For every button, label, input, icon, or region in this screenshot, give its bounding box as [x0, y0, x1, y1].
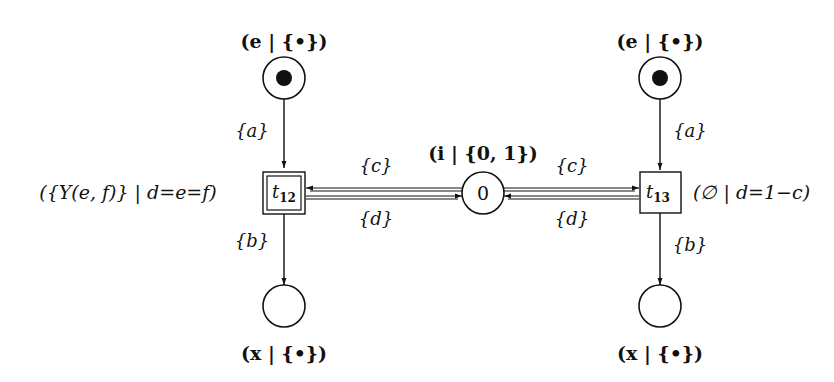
transition-t12: t12	[263, 172, 305, 214]
token-icon	[276, 70, 292, 86]
place-e-right	[639, 57, 681, 99]
place-e-left-label: (e | {•})	[241, 30, 328, 53]
arc-label-b-left: {b}	[235, 230, 269, 251]
arc-t13-to-i	[504, 196, 639, 199]
token-icon	[652, 70, 668, 86]
arc-label-c-left: {c}	[360, 155, 393, 176]
place-e-right-label: (e | {•})	[617, 30, 704, 53]
transition-t13: t13	[640, 172, 681, 213]
arc-label-a-left: {a}	[235, 120, 269, 141]
arc-label-d-left: {d}	[359, 208, 393, 229]
arc-label-d-right: {d}	[555, 208, 589, 229]
t12-subscript: 12	[279, 191, 296, 205]
arc-label-b-right: {b}	[673, 234, 707, 255]
place-x-left	[263, 285, 305, 327]
arc-t12-to-i	[306, 196, 462, 199]
place-x-left-label: (x | {•})	[241, 342, 327, 365]
t12-annotation: ({Y(e, f)} | d=e=f)	[39, 181, 217, 204]
petri-net-diagram: (e | {•}) {a} t12 ({Y(e, f)} | d=e=f) {b…	[0, 0, 834, 382]
place-x-right	[639, 285, 681, 327]
place-x-right-label: (x | {•})	[617, 342, 703, 365]
place-i-label: (i | {0, 1})	[428, 142, 537, 165]
place-e-left	[263, 57, 305, 99]
place-i-value: 0	[477, 182, 489, 204]
arc-label-a-right: {a}	[673, 120, 707, 141]
t13-subscript: 13	[653, 191, 670, 205]
t13-annotation: (∅ | d=1−c)	[693, 181, 810, 204]
arc-i-to-t12	[306, 188, 462, 191]
arc-label-c-right: {c}	[556, 155, 589, 176]
arc-i-to-t13	[504, 188, 639, 191]
